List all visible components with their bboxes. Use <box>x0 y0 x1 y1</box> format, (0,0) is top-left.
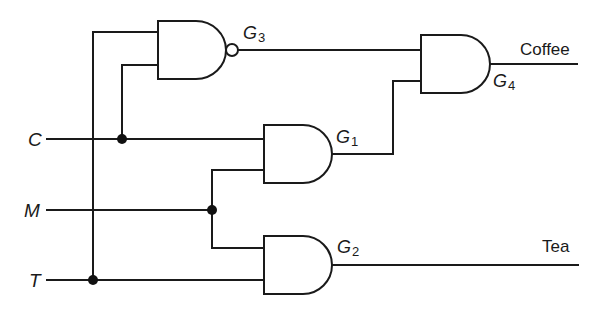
input-label-c: C <box>28 130 42 149</box>
gate-label-g2-letter: G <box>337 237 351 257</box>
gate-g2-and <box>264 236 332 294</box>
wire-c-to-g3 <box>122 65 158 139</box>
gate-g1-and <box>264 125 332 183</box>
junction-dot-m <box>207 205 217 215</box>
gate-label-g4: G4 <box>493 72 515 92</box>
circuit-drawing <box>0 0 603 316</box>
gate-label-g4-index: 4 <box>508 78 515 93</box>
gate-label-g2: G2 <box>337 238 359 258</box>
input-label-t: T <box>29 271 41 290</box>
gate-label-g3-index: 3 <box>258 30 265 45</box>
gate-label-g2-index: 2 <box>352 244 359 259</box>
gate-label-g3: G3 <box>243 24 265 44</box>
gate-label-g3-letter: G <box>243 23 257 43</box>
gate-label-g1-index: 1 <box>351 134 358 149</box>
junction-dot-c <box>117 134 127 144</box>
wire-m-to-g2 <box>212 210 264 248</box>
output-label-tea: Tea <box>542 238 569 255</box>
gate-label-g4-letter: G <box>493 71 507 91</box>
gate-label-g1: G1 <box>336 128 358 148</box>
output-label-coffee: Coffee <box>520 41 570 58</box>
gate-g4-and <box>421 35 490 93</box>
wire-m-to-g1 <box>212 170 264 210</box>
gate-g3-nand <box>158 21 226 79</box>
gate-label-g1-letter: G <box>336 127 350 147</box>
gate-g3-inversion-bubble <box>226 44 238 56</box>
junction-dot-t <box>88 275 98 285</box>
logic-circuit-diagram: C M T G3 G4 G1 G2 Coffee Tea <box>0 0 603 316</box>
input-label-m: M <box>24 201 40 220</box>
wire-t-to-g3 <box>93 32 158 280</box>
